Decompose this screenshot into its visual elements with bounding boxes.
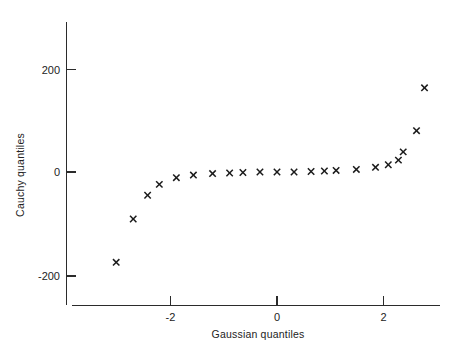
data-point-marker	[144, 192, 150, 198]
data-point-group	[113, 85, 428, 266]
data-point-marker	[113, 259, 119, 265]
y-axis-title: Cauchy quantiles	[14, 133, 26, 217]
data-point-marker	[240, 169, 246, 175]
x-axis-title: Gaussian quantiles	[212, 328, 305, 340]
data-point-marker	[257, 169, 263, 175]
data-point-marker	[400, 149, 406, 155]
data-point-marker	[130, 216, 136, 222]
data-point-marker	[190, 172, 196, 178]
data-point-marker	[308, 168, 314, 174]
data-point-marker	[333, 167, 339, 173]
data-point-marker	[413, 128, 419, 134]
data-point-marker	[156, 181, 162, 187]
x-tick-label-neg2: -2	[166, 311, 176, 323]
x-tick-label-0: 0	[274, 311, 280, 323]
y-tick-label-0: 0	[54, 166, 60, 178]
data-point-marker	[209, 170, 215, 176]
data-point-marker	[274, 169, 280, 175]
data-point-marker	[291, 169, 297, 175]
data-point-marker	[226, 170, 232, 176]
y-axis-ticks	[67, 70, 77, 277]
data-point-marker	[321, 168, 327, 174]
x-axis-ticks	[171, 296, 384, 306]
data-point-marker	[421, 85, 427, 91]
data-point-marker	[353, 166, 359, 172]
scatter-plot-svg: 200 0 -200 -2 0 2 Gaussian quantiles Cau…	[0, 0, 454, 349]
data-point-marker	[173, 174, 179, 180]
y-tick-label-200: 200	[42, 64, 60, 76]
qq-plot-figure: 200 0 -200 -2 0 2 Gaussian quantiles Cau…	[0, 0, 454, 349]
data-point-marker	[372, 164, 378, 170]
y-tick-label-neg200: -200	[38, 270, 60, 282]
x-tick-label-2: 2	[380, 311, 386, 323]
data-point-marker	[395, 157, 401, 163]
data-point-marker	[385, 162, 391, 168]
